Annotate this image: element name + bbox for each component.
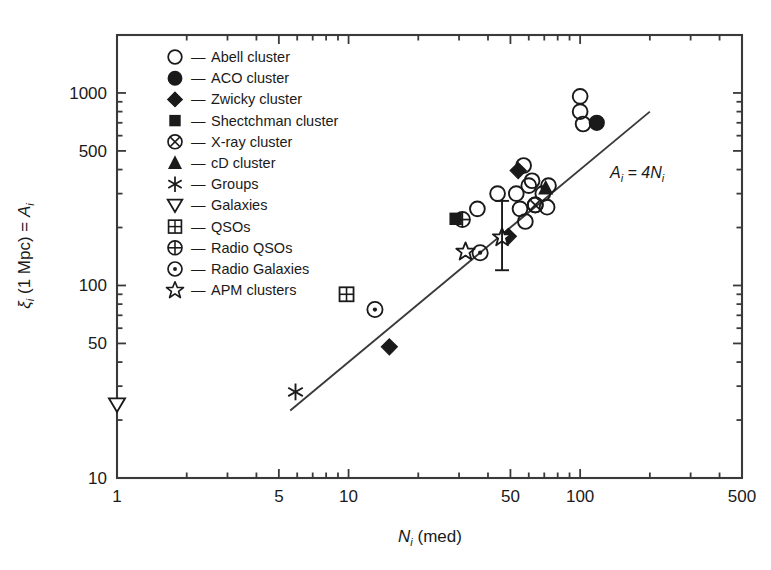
y-tick-label-1000: 1000	[69, 84, 107, 103]
x-tick-label-500: 500	[728, 487, 756, 506]
y-tick-label-10: 10	[88, 469, 107, 488]
y-title-A-sub: i	[24, 203, 36, 206]
y-tick-label-500: 500	[79, 142, 107, 161]
y-tick-labels: 10501005001000	[69, 84, 107, 488]
x-tick-label-5: 5	[274, 487, 283, 506]
annot-A: A	[609, 164, 621, 181]
svg-text:Ni (med): Ni (med)	[398, 527, 462, 548]
legend-dash: —	[191, 176, 206, 192]
legend-dash: —	[191, 282, 206, 298]
legend-label-groups: Groups	[211, 176, 259, 192]
x-axis-title: Ni (med)	[398, 527, 462, 548]
legend-marker-circle-plus	[168, 241, 182, 255]
legend-label-x-ray-cluster: X-ray cluster	[211, 134, 293, 150]
legend-dash: —	[191, 70, 206, 86]
legend-dash: —	[191, 49, 206, 65]
x-tick-label-1: 1	[112, 487, 121, 506]
y-title-A: A	[15, 206, 34, 218]
legend-label-zwicky-cluster: Zwicky cluster	[211, 91, 302, 107]
y-title-mid: (1 Mpc) =	[15, 217, 34, 299]
x-tick-label-10: 10	[339, 487, 358, 506]
legend-label-qsos: QSOs	[211, 219, 250, 235]
x-tick-label-50: 50	[501, 487, 520, 506]
legend-label-radio-galaxies: Radio Galaxies	[211, 261, 309, 277]
legend-label-apm-clusters: APM clusters	[211, 282, 296, 298]
x-tick-labels: 151050100500	[112, 487, 756, 506]
figure-container: 151050100500 10501005001000 Ai = 4Ni Ni …	[0, 0, 771, 570]
annot-N: N	[650, 164, 662, 181]
y-axis-title: ξi (1 Mpc) = Ai	[15, 203, 36, 309]
x-tick-label-100: 100	[566, 487, 594, 506]
x-title-main: N	[398, 527, 411, 546]
legend-dash: —	[191, 197, 206, 213]
legend-label-radio-qsos: Radio QSOs	[211, 240, 292, 256]
legend-dash: —	[191, 134, 206, 150]
y-tick-label-50: 50	[88, 334, 107, 353]
legend-label-cd-cluster: cD cluster	[211, 155, 276, 171]
legend-dash: —	[191, 261, 206, 277]
legend-marker-filled-square	[169, 115, 180, 126]
legend-label-abell-cluster: Abell cluster	[211, 49, 290, 65]
y-tick-label-100: 100	[79, 276, 107, 295]
svg-text:ξi (1 Mpc) = Ai: ξi (1 Mpc) = Ai	[15, 203, 36, 309]
legend-dash: —	[191, 113, 206, 129]
x-title-tail: (med)	[413, 527, 462, 546]
point-filled-circle	[589, 115, 604, 130]
legend-label-aco-cluster: ACO cluster	[211, 70, 289, 86]
legend-marker-filled-circle	[168, 71, 182, 85]
legend-dash: —	[191, 91, 206, 107]
scatter-plot: 151050100500 10501005001000 Ai = 4Ni Ni …	[0, 0, 771, 570]
legend-label-galaxies: Galaxies	[211, 197, 267, 213]
legend-dash: —	[191, 219, 206, 235]
legend-label-shectchman-cluster: Shectchman cluster	[211, 113, 339, 129]
annot-eq: = 4	[623, 164, 650, 181]
point-circle-plus	[455, 212, 470, 227]
legend-dash: —	[191, 155, 206, 171]
legend-dash: —	[191, 240, 206, 256]
